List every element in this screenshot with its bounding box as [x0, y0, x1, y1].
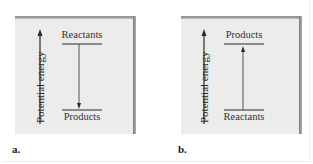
- arrow-up-icon: [241, 46, 245, 52]
- arrow-down-icon: [77, 103, 81, 109]
- bottom-level-label: Products: [52, 111, 112, 122]
- y-axis-label: Potential energy: [198, 51, 210, 123]
- top-level-label: Reactants: [52, 29, 112, 40]
- axis-arrowhead-icon: [38, 29, 43, 36]
- y-axis-label: Potential energy: [34, 51, 46, 123]
- panel-a-exothermic: Potential energy Reactants Products: [15, 16, 133, 134]
- panel-b-label: b.: [178, 143, 187, 155]
- panel-a-label: a.: [12, 143, 20, 155]
- top-level-label: Products: [214, 29, 274, 40]
- bottom-level-label: Reactants: [214, 111, 274, 122]
- axis-arrowhead-icon: [202, 29, 207, 36]
- panel-b-endothermic: Potential energy Products Reactants: [181, 16, 299, 134]
